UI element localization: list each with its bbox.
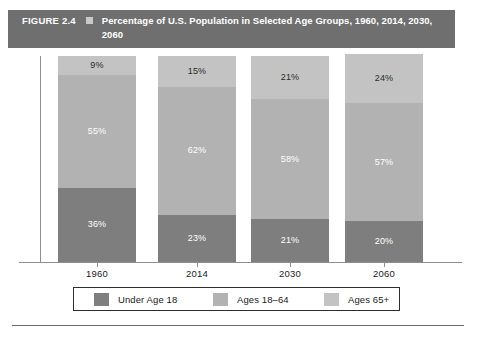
x-axis-tick-1960 <box>97 262 98 267</box>
bar-stack: 9%55%36% <box>58 56 136 262</box>
legend-color-swatch <box>324 293 339 306</box>
x-axis-label-2030: 2030 <box>251 268 329 279</box>
bar-value-label: 58% <box>281 155 300 164</box>
bar-segment-2014-under-age-18[interactable]: 23% <box>158 215 236 262</box>
bar-value-label: 23% <box>188 234 207 243</box>
figure-number-label: FIGURE 2.4 <box>22 14 76 27</box>
banner-row: FIGURE 2.4 Percentage of U.S. Population… <box>22 14 455 41</box>
chart-legend: Under Age 18Ages 18–64Ages 65+ <box>73 287 400 311</box>
figure-title-banner: FIGURE 2.4 Percentage of U.S. Population… <box>8 10 455 48</box>
legend-item-ages-18-64[interactable]: Ages 18–64 <box>213 293 289 306</box>
bar-segment-1960-ages-18-64[interactable]: 55% <box>58 75 136 188</box>
x-axis-tick-2060 <box>384 262 385 267</box>
bar-group-2060[interactable]: 24%57%20% <box>345 54 423 262</box>
bar-stack: 24%57%20% <box>345 54 423 262</box>
bar-segment-2060-ages-65[interactable]: 24% <box>345 54 423 103</box>
x-axis-label-2060: 2060 <box>345 268 423 279</box>
legend-color-swatch <box>94 293 109 306</box>
bar-segment-2014-ages-18-64[interactable]: 62% <box>158 87 236 215</box>
bar-stack: 21%58%21% <box>251 56 329 262</box>
bar-value-label: 21% <box>281 73 300 82</box>
bar-value-label: 62% <box>188 146 207 155</box>
bar-segment-1960-ages-65[interactable]: 9% <box>58 56 136 75</box>
bar-value-label: 57% <box>375 158 394 167</box>
bar-segment-2030-under-age-18[interactable]: 21% <box>251 219 329 262</box>
x-axis-label-1960: 1960 <box>58 268 136 279</box>
bar-value-label: 9% <box>90 61 103 70</box>
legend-label: Under Age 18 <box>118 294 177 305</box>
legend-item-under-age-18[interactable]: Under Age 18 <box>94 293 177 306</box>
bar-value-label: 55% <box>88 127 107 136</box>
bar-value-label: 24% <box>375 74 394 83</box>
x-axis-tick-2030 <box>290 262 291 267</box>
bar-segment-2030-ages-65[interactable]: 21% <box>251 56 329 99</box>
bar-segment-2014-ages-65[interactable]: 15% <box>158 56 236 87</box>
bar-value-label: 15% <box>188 67 207 76</box>
square-bullet-icon <box>86 17 93 24</box>
bar-value-label: 36% <box>88 220 107 229</box>
x-axis-tick-2014 <box>197 262 198 267</box>
bar-segment-2060-ages-18-64[interactable]: 57% <box>345 103 423 220</box>
x-axis-line <box>19 262 462 263</box>
legend-label: Ages 18–64 <box>237 294 289 305</box>
bar-value-label: 20% <box>375 237 394 246</box>
bar-value-label: 21% <box>281 236 300 245</box>
bar-segment-1960-under-age-18[interactable]: 36% <box>58 188 136 262</box>
bottom-divider <box>12 325 464 326</box>
bar-group-2014[interactable]: 15%62%23% <box>158 56 236 262</box>
figure-title-text: Percentage of U.S. Population in Selecte… <box>102 14 454 41</box>
bar-segment-2060-under-age-18[interactable]: 20% <box>345 221 423 262</box>
legend-color-swatch <box>213 293 228 306</box>
bar-stack: 15%62%23% <box>158 56 236 262</box>
plot-area: 9%55%36%15%62%23%21%58%21%24%57%20% <box>40 56 460 262</box>
bar-group-2030[interactable]: 21%58%21% <box>251 56 329 262</box>
bar-segment-2030-ages-18-64[interactable]: 58% <box>251 99 329 218</box>
legend-item-ages-65[interactable]: Ages 65+ <box>324 293 389 306</box>
bar-group-1960[interactable]: 9%55%36% <box>58 56 136 262</box>
legend-label: Ages 65+ <box>348 294 389 305</box>
x-axis-label-2014: 2014 <box>158 268 236 279</box>
